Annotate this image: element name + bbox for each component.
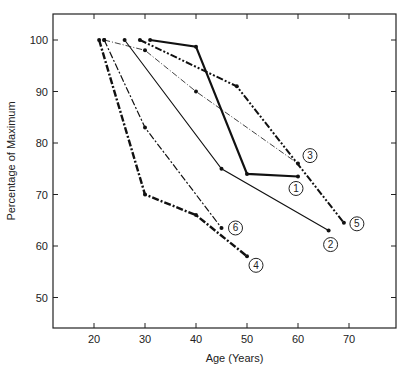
data-point — [245, 254, 249, 258]
chart: 203040506070 5060708090100 123456 Age (Y… — [0, 0, 404, 374]
data-point — [220, 167, 224, 171]
x-tick-label: 50 — [241, 333, 253, 345]
y-ticks: 5060708090100 — [30, 34, 396, 304]
series-5 — [138, 38, 346, 225]
data-point — [235, 84, 239, 88]
series-label-number: 4 — [253, 260, 259, 271]
data-point — [245, 172, 249, 176]
series-label-4: 4 — [249, 258, 263, 272]
series-layer — [97, 38, 346, 258]
series-line — [140, 40, 344, 223]
series-label-6: 6 — [229, 221, 243, 235]
y-tick-label: 100 — [30, 34, 48, 46]
y-tick-label: 70 — [36, 189, 48, 201]
x-tick-label: 70 — [343, 333, 355, 345]
x-tick-label: 40 — [190, 333, 202, 345]
data-point — [148, 38, 152, 42]
series-label-3: 3 — [303, 149, 317, 163]
series-2 — [123, 38, 331, 233]
y-tick-label: 50 — [36, 292, 48, 304]
data-point — [194, 90, 198, 94]
data-point — [296, 174, 300, 178]
y-tick-label: 60 — [36, 240, 48, 252]
data-point — [342, 221, 346, 225]
series-6 — [102, 38, 223, 230]
y-axis-title: Percentage of Maximum — [5, 101, 17, 220]
y-tick-label: 90 — [36, 86, 48, 98]
series-label-number: 2 — [328, 239, 334, 250]
data-point — [220, 226, 224, 230]
x-axis-title: Age (Years) — [206, 352, 264, 364]
data-point — [194, 45, 198, 49]
series-line — [150, 40, 298, 176]
series-label-5: 5 — [350, 217, 364, 231]
data-point — [143, 48, 147, 52]
x-ticks: 203040506070 — [88, 14, 355, 345]
series-4 — [97, 38, 249, 258]
series-label-number: 1 — [293, 183, 299, 194]
data-point — [143, 193, 147, 197]
series-label-2: 2 — [324, 238, 338, 252]
data-point — [327, 229, 331, 233]
data-point — [194, 213, 198, 217]
series-label-number: 3 — [307, 150, 313, 161]
series-label-number: 6 — [233, 222, 239, 233]
x-tick-label: 20 — [88, 333, 100, 345]
data-point — [97, 38, 101, 42]
series-label-number: 5 — [354, 218, 360, 229]
data-point — [102, 38, 106, 42]
data-point — [123, 38, 127, 42]
series-labels: 123456 — [229, 149, 364, 273]
x-tick-label: 60 — [292, 333, 304, 345]
series-label-1: 1 — [289, 181, 303, 195]
series-line — [125, 40, 329, 231]
series-1 — [148, 38, 300, 178]
y-tick-label: 80 — [36, 137, 48, 149]
data-point — [143, 126, 147, 130]
x-tick-label: 30 — [139, 333, 151, 345]
data-point — [138, 38, 142, 42]
series-line — [99, 40, 247, 256]
